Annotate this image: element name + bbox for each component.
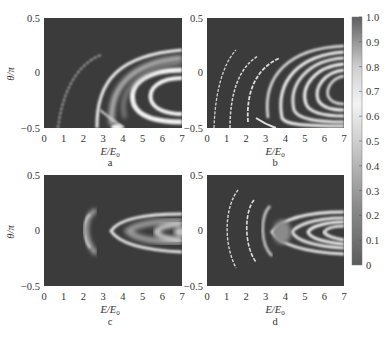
- panel-c-ytick-top: 0.5: [27, 170, 40, 181]
- svg-text:7: 7: [341, 133, 346, 144]
- svg-text:6: 6: [160, 133, 165, 144]
- panel-c-ytick-mid: 0: [35, 225, 40, 236]
- colorbar-tick-0.2: 0.2: [366, 210, 379, 221]
- panel-c-ytick-bot: −0.5: [21, 281, 40, 292]
- svg-text:0: 0: [41, 291, 46, 302]
- colorbar-tick-0.4: 0.4: [366, 161, 380, 172]
- colorbar-tick-0: 0: [366, 260, 371, 271]
- colorbar-tick-0.5: 0.5: [366, 136, 379, 147]
- panel-d-ytick-bot: −0.5: [184, 281, 203, 292]
- panel-b-ytick-bot: −0.5: [184, 123, 203, 134]
- svg-text:4: 4: [120, 133, 126, 144]
- svg-text:3: 3: [100, 291, 105, 302]
- svg-text:5: 5: [140, 291, 145, 302]
- panel-a-ytick-bot: −0.5: [21, 123, 40, 134]
- svg-text:5: 5: [302, 133, 307, 144]
- panel-d-ytick-mid: 0: [198, 225, 203, 236]
- svg-text:2: 2: [81, 291, 86, 302]
- svg-text:4: 4: [283, 133, 289, 144]
- panel-a-ytick-mid: 0: [35, 67, 40, 78]
- panel-b-plot: [207, 18, 344, 128]
- panel-c-label: c: [108, 316, 113, 327]
- panel-b: 0.5 0 −0.5 0 1 2 3 4 5 6 7 E/E0 b: [184, 13, 347, 168]
- colorbar-tick-0.9: 0.9: [366, 37, 379, 48]
- colorbar-tick-0.3: 0.3: [366, 186, 379, 197]
- svg-text:5: 5: [140, 133, 145, 144]
- colorbar: 1.0 0.9 0.8 0.7 0.6 0.5 0.4 0.3 0.2 0.1 …: [352, 12, 380, 271]
- svg-text:1: 1: [61, 133, 66, 144]
- panel-c-ylabel: θ/π: [5, 225, 16, 239]
- figure: 0.5 0 −0.5 0 1 2 3 4 5 6 7 E/E0 a θ/π: [0, 0, 391, 339]
- svg-text:7: 7: [341, 291, 346, 302]
- svg-text:3: 3: [263, 133, 268, 144]
- panel-d-xticks: 0 1 2 3 4 5 6 7: [204, 291, 346, 302]
- panel-d-label: d: [272, 316, 278, 327]
- svg-text:2: 2: [243, 133, 248, 144]
- svg-text:1: 1: [61, 291, 66, 302]
- svg-text:2: 2: [243, 291, 248, 302]
- colorbar-tick-0.1: 0.1: [366, 235, 379, 246]
- panel-a-ylabel: θ/π: [5, 67, 16, 81]
- svg-text:0: 0: [41, 133, 46, 144]
- panel-c-xticks: 0 1 2 3 4 5 6 7: [41, 291, 184, 302]
- svg-text:6: 6: [160, 291, 165, 302]
- svg-text:3: 3: [100, 133, 105, 144]
- svg-text:4: 4: [283, 291, 289, 302]
- panel-a-xticks: 0 1 2 3 4 5 6 7: [41, 133, 184, 144]
- svg-text:7: 7: [179, 133, 184, 144]
- colorbar-tick-1.0: 1.0: [366, 12, 379, 23]
- panel-a-ytick-top: 0.5: [27, 13, 40, 24]
- panel-d-ytick-top: 0.5: [190, 170, 203, 181]
- panel-b-label: b: [272, 157, 277, 168]
- svg-text:6: 6: [322, 291, 327, 302]
- panel-b-ytick-mid: 0: [198, 67, 203, 78]
- svg-text:5: 5: [302, 291, 307, 302]
- svg-text:6: 6: [322, 133, 327, 144]
- svg-text:0: 0: [204, 291, 209, 302]
- colorbar-tick-0.6: 0.6: [366, 111, 379, 122]
- panel-a-label: a: [108, 157, 113, 168]
- colorbar-tick-0.8: 0.8: [366, 62, 379, 73]
- panel-b-xticks: 0 1 2 3 4 5 6 7: [204, 133, 346, 144]
- svg-text:7: 7: [179, 291, 184, 302]
- colorbar-tick-0.7: 0.7: [366, 86, 379, 97]
- panel-c: 0.5 0 −0.5 0 1 2 3 4 5 6 7 E/E0 c θ/π: [5, 170, 186, 327]
- panel-a: 0.5 0 −0.5 0 1 2 3 4 5 6 7 E/E0 a θ/π: [5, 13, 185, 168]
- svg-text:2: 2: [81, 133, 86, 144]
- svg-text:1: 1: [224, 291, 229, 302]
- svg-text:3: 3: [263, 291, 268, 302]
- svg-text:0: 0: [204, 133, 209, 144]
- panel-b-ytick-top: 0.5: [190, 13, 203, 24]
- panel-d: 0.5 0 −0.5 0 1 2 3 4 5 6 7 E/E0 d: [184, 170, 347, 327]
- svg-text:1: 1: [224, 133, 229, 144]
- svg-text:4: 4: [120, 291, 126, 302]
